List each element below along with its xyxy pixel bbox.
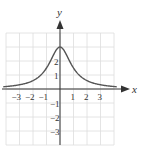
x-axis-label: x (131, 83, 137, 95)
y-tick-label: 2 (54, 57, 59, 67)
x-axis-arrow-icon (121, 86, 130, 93)
y-tick-label: −3 (50, 127, 60, 137)
x-tick-label: −1 (39, 92, 49, 102)
y-tick-label: −2 (50, 113, 60, 123)
x-tick-label: −2 (25, 92, 35, 102)
y-axis-arrow-icon (57, 20, 64, 29)
x-tick-label: 3 (98, 92, 103, 102)
axes: x y (2, 6, 137, 145)
x-tick-label: −3 (12, 92, 22, 102)
x-tick-label: 2 (84, 92, 89, 102)
function-graph: x y −3−2−1123−3−2−112 (0, 0, 141, 149)
y-axis-label: y (56, 6, 62, 18)
y-tick-label: 1 (54, 71, 59, 81)
tick-labels: −3−2−1123−3−2−112 (12, 57, 103, 137)
x-tick-label: 1 (71, 92, 76, 102)
y-tick-label: −1 (50, 99, 60, 109)
